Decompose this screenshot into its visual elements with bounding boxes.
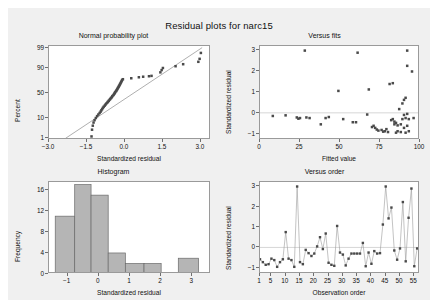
- y-tick-mark: [45, 67, 48, 68]
- y-tick-mark: [45, 231, 48, 232]
- y-tick-label: 1: [239, 87, 255, 94]
- y-tick-mark: [256, 267, 259, 268]
- x-tick-label: −3.0: [42, 143, 55, 150]
- y-axis-label-standardized-residual-fits: Standardized residual: [225, 70, 232, 134]
- y-tick-mark: [45, 189, 48, 190]
- y-tick-label: 50: [28, 89, 44, 96]
- x-tick-mark: [313, 273, 314, 276]
- y-tick-label: 16: [28, 185, 44, 192]
- x-tick-label: 1: [257, 277, 261, 284]
- x-tick-label: 25: [324, 277, 331, 284]
- y-tick-mark: [45, 210, 48, 211]
- x-tick-mark: [342, 273, 343, 276]
- y-tick-mark: [45, 117, 48, 118]
- y-tick-label: 8: [28, 227, 44, 234]
- x-tick-label: 3.0: [195, 143, 204, 150]
- y-tick-label: 90: [28, 63, 44, 70]
- x-tick-mark: [339, 139, 340, 142]
- x-tick-label: 30: [338, 277, 345, 284]
- x-tick-label: 20: [310, 277, 317, 284]
- y-tick-label: −1: [239, 263, 255, 270]
- y-tick-label: 1: [239, 222, 255, 229]
- x-tick-label: 50: [335, 143, 342, 150]
- y-tick-label: 2: [239, 67, 255, 74]
- x-tick-label: 2: [158, 277, 162, 284]
- plot-area-versus-order: [259, 181, 419, 273]
- plot-area-histogram: [48, 181, 210, 273]
- panel-normal-probability-plot: Normal probability plot Percent Standard…: [8, 32, 219, 166]
- y-tick-label: 1: [28, 134, 44, 141]
- x-tick-mark: [124, 139, 125, 142]
- x-tick-mark: [48, 139, 49, 142]
- panel-histogram: Histogram Frequency Standardized residua…: [8, 168, 219, 300]
- x-tick-mark: [285, 273, 286, 276]
- x-tick-label: 0: [257, 143, 261, 150]
- y-axis-label-frequency: Frequency: [14, 231, 21, 262]
- x-tick-mark: [259, 139, 260, 142]
- x-tick-mark: [86, 139, 87, 142]
- x-tick-mark: [419, 139, 420, 142]
- x-tick-mark: [385, 273, 386, 276]
- y-tick-mark: [256, 112, 259, 113]
- x-tick-label: 5: [269, 277, 273, 284]
- x-tick-label: 25: [295, 143, 302, 150]
- y-axis-label-standardized-residual-order: Standardized residual: [225, 206, 232, 270]
- x-tick-label: −1: [63, 277, 70, 284]
- y-tick-label: 2: [239, 202, 255, 209]
- x-tick-label: 35: [353, 277, 360, 284]
- histogram-canvas: [49, 182, 210, 273]
- versus-fits-canvas: [260, 46, 419, 139]
- y-tick-mark: [256, 70, 259, 71]
- y-tick-mark: [45, 252, 48, 253]
- x-tick-mark: [379, 139, 380, 142]
- panel-versus-order: Versus order Standardized residual Obser…: [219, 168, 430, 300]
- panel-title-normal-probability-plot: Normal probability plot: [8, 32, 219, 39]
- x-tick-mark: [160, 273, 161, 276]
- y-tick-label: −1: [239, 129, 255, 136]
- x-tick-mark: [259, 273, 260, 276]
- normal-plot-canvas: [49, 46, 210, 139]
- x-tick-label: 10: [281, 277, 288, 284]
- y-tick-label: 3: [239, 182, 255, 189]
- y-tick-mark: [256, 133, 259, 134]
- y-tick-label: 10: [28, 114, 44, 121]
- y-tick-label: 0: [28, 270, 44, 277]
- x-tick-label: 75: [375, 143, 382, 150]
- x-tick-mark: [162, 139, 163, 142]
- figure-title: Residual plots for narc15: [8, 20, 430, 31]
- residual-plots-figure: Residual plots for narc15 Normal probabi…: [8, 8, 430, 300]
- panel-title-histogram: Histogram: [8, 168, 219, 175]
- x-tick-label: 3: [190, 277, 194, 284]
- versus-order-canvas: [260, 182, 419, 273]
- x-tick-label: −1.5: [80, 143, 93, 150]
- y-tick-mark: [256, 206, 259, 207]
- x-axis-label-standardized-residual-hist: Standardized residual: [48, 289, 210, 296]
- y-tick-mark: [256, 246, 259, 247]
- plot-area-versus-fits: [259, 45, 419, 139]
- x-tick-mark: [299, 273, 300, 276]
- panel-title-versus-fits: Versus fits: [219, 32, 430, 39]
- x-tick-mark: [413, 273, 414, 276]
- y-tick-label: 0: [239, 243, 255, 250]
- y-tick-mark: [45, 92, 48, 93]
- x-tick-mark: [67, 273, 68, 276]
- x-tick-mark: [129, 273, 130, 276]
- x-tick-mark: [370, 273, 371, 276]
- plot-area-normal-probability-plot: [48, 45, 210, 139]
- x-tick-label: 50: [395, 277, 402, 284]
- x-tick-mark: [299, 139, 300, 142]
- y-tick-mark: [256, 49, 259, 50]
- x-tick-label: 15: [295, 277, 302, 284]
- x-tick-label: 0.0: [119, 143, 128, 150]
- y-tick-label: 3: [239, 46, 255, 53]
- y-tick-label: 0: [239, 108, 255, 115]
- panel-title-versus-order: Versus order: [219, 168, 430, 175]
- x-tick-mark: [328, 273, 329, 276]
- y-tick-mark: [256, 185, 259, 186]
- x-tick-mark: [270, 273, 271, 276]
- panel-versus-fits: Versus fits Standardized residual Fitted…: [219, 32, 430, 166]
- x-tick-label: 55: [410, 277, 417, 284]
- x-axis-label-observation-order: Observation order: [259, 289, 419, 296]
- y-tick-mark: [45, 47, 48, 48]
- x-tick-mark: [399, 273, 400, 276]
